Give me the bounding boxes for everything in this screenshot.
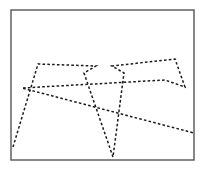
- figure-container: [0, 0, 206, 169]
- dashed-polyline-figure: [0, 0, 206, 169]
- plot-border-rect: [11, 10, 194, 160]
